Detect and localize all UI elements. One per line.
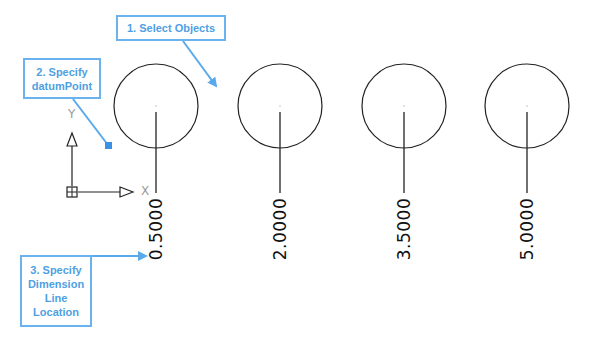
dimension-text-1[interactable]: 0.5000: [146, 197, 166, 261]
callout-2-line-1: 2. Specify: [36, 65, 87, 79]
dimension-text-2[interactable]: 2.0000: [270, 197, 290, 261]
callout-3-line-2: Dimension: [28, 277, 84, 291]
callout-3-line-4: Location: [33, 305, 79, 319]
ucs-y-label: Y: [68, 107, 75, 121]
callout-3-line-3: Line: [45, 291, 68, 305]
callout-select-objects: 1. Select Objects: [116, 15, 226, 41]
callout-3-line-1: 3. Specify: [30, 263, 81, 277]
callout-select-objects-text: 1. Select Objects: [127, 21, 215, 35]
callout-specify-datum-point: 2. Specify datumPoint: [23, 58, 101, 99]
callout-2-leader: [73, 99, 108, 145]
datum-point-marker[interactable]: [105, 142, 112, 149]
callout-specify-dimension-line-location: 3. Specify Dimension Line Location: [20, 255, 92, 327]
dimension-text-3[interactable]: 3.5000: [394, 197, 414, 261]
ucs-icon: [67, 133, 133, 197]
ucs-x-label: X: [141, 184, 149, 198]
dimension-text-4[interactable]: 5.0000: [517, 197, 537, 261]
callout-2-line-2: datumPoint: [32, 79, 93, 93]
